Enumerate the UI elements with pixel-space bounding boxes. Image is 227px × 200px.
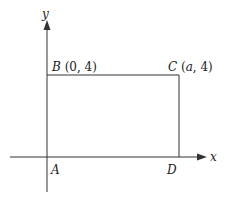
diagram-canvas: y x B (0, 4) C (a, 4) A D	[0, 0, 227, 200]
x-axis-label: x	[210, 150, 217, 164]
point-b-coords: (0, 4)	[61, 60, 97, 74]
point-b-name: B	[51, 60, 61, 74]
point-d-label: D	[166, 163, 177, 177]
point-b-label: B (0, 4)	[51, 60, 97, 74]
point-c-name: C	[168, 60, 177, 74]
point-a-label: A	[50, 163, 60, 177]
x-axis-arrow-icon	[197, 154, 207, 161]
point-c-coords-close: , 4)	[193, 60, 213, 74]
point-c-coords-var: a	[186, 60, 193, 74]
y-axis-label: y	[41, 7, 49, 21]
point-c-label: C (a, 4)	[168, 60, 213, 74]
y-axis-arrow-icon	[44, 20, 51, 30]
rectangle-coordinate-diagram: y x B (0, 4) C (a, 4) A D	[0, 0, 227, 200]
point-c-coords-open: (	[177, 60, 186, 74]
